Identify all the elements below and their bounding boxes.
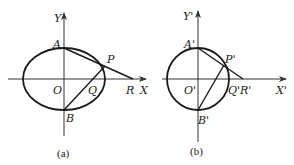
- label-point-B-prime: B': [197, 114, 209, 127]
- figure-b: Y' X' A' P' O' Q' R' B' (b): [162, 10, 287, 158]
- diagram-canvas: Y X A P O Q R B (a) Y' X' A' P' O' Q' R'…: [0, 0, 294, 165]
- label-point-P-prime: P': [224, 53, 235, 66]
- label-point-O: O: [53, 84, 62, 97]
- label-point-A-prime: A': [183, 38, 195, 51]
- label-point-B: B: [65, 112, 74, 125]
- label-x-a: X: [139, 84, 149, 97]
- label-point-O-prime: O': [184, 84, 196, 97]
- label-point-R: R: [125, 84, 134, 97]
- line-A-R: [64, 48, 133, 79]
- label-point-R-prime: R': [239, 84, 251, 97]
- label-y-a: Y: [54, 12, 63, 25]
- line-A-R-prime: [198, 48, 243, 79]
- label-point-P: P: [106, 53, 115, 66]
- label-point-Q: Q: [88, 84, 97, 97]
- caption-a: (a): [57, 147, 70, 160]
- figure-a: Y X A P O Q R B (a): [8, 12, 149, 160]
- line-B-P-prime: [198, 65, 224, 110]
- line-B-P: [64, 66, 105, 110]
- label-point-A: A: [52, 38, 61, 51]
- label-y-b: Y': [183, 10, 193, 23]
- label-point-Q-prime: Q': [228, 84, 240, 97]
- label-x-b: X': [275, 84, 287, 97]
- caption-b: (b): [190, 145, 203, 158]
